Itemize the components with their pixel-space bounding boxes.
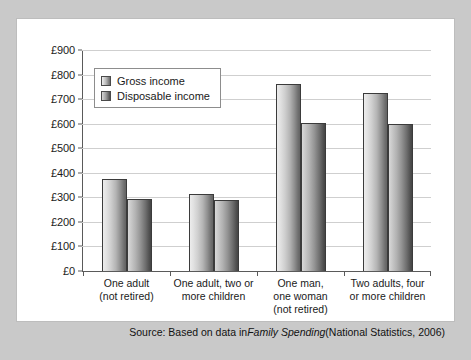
legend-item-disposable-income: Disposable income <box>101 88 210 103</box>
bar-disposable[interactable] <box>127 199 152 271</box>
y-tick-mark <box>78 123 82 124</box>
chart-legend: Gross income Disposable income <box>94 68 221 108</box>
bar-gross[interactable] <box>276 84 301 271</box>
y-tick-label: £800 <box>51 69 75 81</box>
x-tick-mark <box>257 271 258 276</box>
disposable-swatch-icon <box>101 91 111 101</box>
y-tick-mark <box>78 50 82 51</box>
chart-panel: £0£100£200£300£400£500£600£700£800£900 O… <box>16 18 455 322</box>
y-tick-label: £400 <box>51 167 75 179</box>
legend-item-gross-income: Gross income <box>101 73 210 88</box>
y-tick-label: £300 <box>51 191 75 203</box>
y-tick-label: £900 <box>51 44 75 56</box>
y-tick-mark <box>78 148 82 149</box>
y-tick-mark <box>78 221 82 222</box>
legend-label-disposable-income: Disposable income <box>117 90 210 102</box>
y-tick-label: £500 <box>51 142 75 154</box>
source-title: Family Spending <box>247 326 325 338</box>
x-tick-mark <box>83 271 84 276</box>
figure-container: £0£100£200£300£400£500£600£700£800£900 O… <box>0 0 471 360</box>
x-tick-mark <box>344 271 345 276</box>
bar-gross[interactable] <box>189 194 214 271</box>
legend-label-gross-income: Gross income <box>117 75 185 87</box>
bar-disposable[interactable] <box>301 123 326 271</box>
y-tick-label: £700 <box>51 93 75 105</box>
gross-swatch-icon <box>101 76 111 86</box>
y-tick-mark <box>78 271 82 272</box>
y-tick-label: £100 <box>51 240 75 252</box>
source-suffix: (National Statistics, 2006) <box>325 326 445 338</box>
x-tick-mark <box>430 271 431 276</box>
bar-gross[interactable] <box>363 93 388 271</box>
source-prefix: Source: Based on data in <box>129 326 247 338</box>
y-tick-label: £0 <box>63 265 75 277</box>
bar-group <box>257 50 344 271</box>
y-tick-label: £600 <box>51 118 75 130</box>
bar-disposable[interactable] <box>214 200 239 271</box>
x-tick-mark <box>170 271 171 276</box>
bar-gross[interactable] <box>102 179 127 271</box>
y-tick-mark <box>78 246 82 247</box>
y-tick-mark <box>78 197 82 198</box>
y-tick-mark <box>78 99 82 100</box>
source-caption: Source: Based on data in Family Spending… <box>0 304 471 360</box>
bar-group <box>344 50 431 271</box>
bar-disposable[interactable] <box>388 124 413 271</box>
y-tick-mark <box>78 74 82 75</box>
y-tick-mark <box>78 172 82 173</box>
y-tick-label: £200 <box>51 216 75 228</box>
